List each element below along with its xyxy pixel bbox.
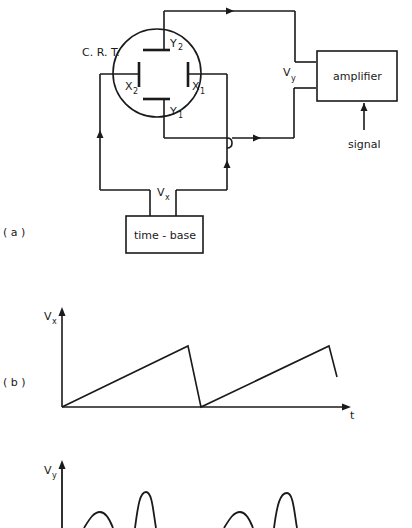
svg-text:y: y [291,74,296,83]
signal-peak-small-1 [84,512,113,528]
part-b-label: ( b ) [3,376,26,389]
svg-text:V: V [44,464,52,477]
vy-label: V [283,66,291,79]
crt-label: C. R. T. [82,46,120,59]
signal-peak-small-2 [224,512,253,528]
svg-text:1: 1 [200,87,205,96]
part-c-labels: V y [44,464,57,480]
signal-label: signal [348,138,381,151]
signal-peak-tall-1 [135,492,156,528]
svg-text:x: x [52,317,57,326]
svg-text:2: 2 [178,43,183,52]
x2-label: X [125,80,133,93]
y2-label: Y [169,37,177,50]
signal-chart [62,468,297,528]
svg-text:y: y [52,471,57,480]
x1-label: X [192,80,200,93]
crt-diagram: C. R. T. Y 2 Y 1 X 2 X 1 V y V x amplifi… [0,0,412,528]
part-a-labels: C. R. T. Y 2 Y 1 X 2 X 1 V y V x amplifi… [3,37,382,242]
part-a-label: ( a ) [3,226,25,239]
sawtooth-chart [62,312,343,407]
svg-text:t: t [350,409,355,422]
part-b-labels: V x t ( b ) [3,310,355,422]
y1-label: Y [169,105,177,118]
svg-text:x: x [165,193,170,202]
svg-text:V: V [44,310,52,323]
vx-label: V [157,186,165,199]
signal-peak-tall-2 [274,493,297,528]
timebase-label: time - base [134,229,196,242]
amplifier-label: amplifier [333,70,382,83]
svg-text:1: 1 [178,111,183,120]
svg-text:2: 2 [133,87,138,96]
circuit-part-a [100,11,397,253]
sawtooth-line [62,346,337,407]
